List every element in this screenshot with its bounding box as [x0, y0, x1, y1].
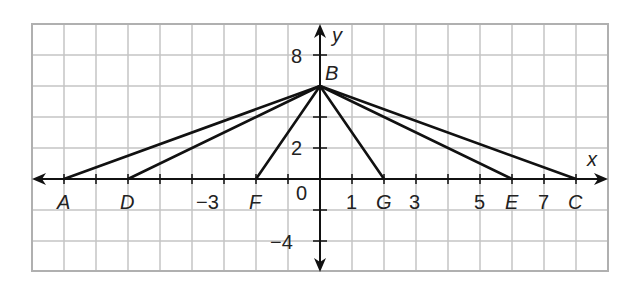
y-tick-8: 8 — [291, 45, 302, 67]
point-label-E: E — [505, 191, 519, 213]
y-tick-2: 2 — [291, 137, 302, 159]
point-label-F: F — [249, 191, 263, 213]
y-axis-label: y — [330, 24, 343, 46]
x-tick-3: 3 — [409, 191, 420, 213]
x-tick-7: 7 — [538, 191, 549, 213]
x-tick-5: 5 — [474, 191, 485, 213]
x-tick-minus-3: −3 — [196, 191, 219, 213]
x-tick-1: 1 — [346, 191, 357, 213]
y-tick-minus-4: −4 — [270, 231, 293, 253]
point-label-D: D — [120, 191, 134, 213]
x-tick-0: 0 — [296, 182, 307, 204]
point-label-G: G — [376, 191, 392, 213]
x-axis-label: x — [586, 148, 598, 170]
point-label-A: A — [56, 191, 70, 213]
point-label-B: B — [325, 62, 338, 84]
point-label-C: C — [568, 191, 583, 213]
coordinate-graph: y x 8 2 −4 −3 0 1 3 5 7 A D F G E C B — [0, 0, 638, 289]
